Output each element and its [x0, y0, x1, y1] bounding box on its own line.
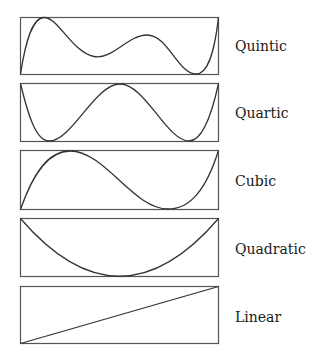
panel-frame [21, 84, 219, 142]
polynomial-figure: Quintic Quartic Cubic Quadratic Linear [0, 0, 329, 357]
label-cubic: Cubic [235, 173, 276, 189]
panel-quartic [21, 84, 219, 142]
label-quintic: Quintic [235, 38, 287, 54]
panel-quintic [21, 17, 219, 74]
panel-linear [21, 287, 219, 344]
linear-curve [21, 287, 219, 344]
label-quadratic: Quadratic [235, 241, 306, 257]
quartic-curve [21, 84, 219, 142]
panel-frame [21, 18, 219, 75]
quadratic-curve [21, 219, 219, 277]
panel-quadratic [21, 219, 219, 277]
label-linear: Linear [235, 309, 281, 325]
panel-cubic [21, 151, 219, 210]
quintic-curve [21, 17, 219, 74]
cubic-curve [21, 151, 219, 210]
label-quartic: Quartic [235, 105, 288, 121]
